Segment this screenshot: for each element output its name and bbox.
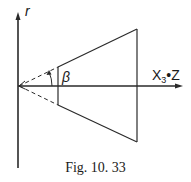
figure-caption: Fig. 10. 33 <box>0 160 191 176</box>
r-axis-arrow-icon <box>16 12 21 20</box>
r-axis-label: r <box>25 4 30 18</box>
cone-figure: r β X3•Z Fig. 10. 33 <box>0 0 191 182</box>
x3-axis-label-suffix: •Z <box>166 67 179 83</box>
beta-angle-label: β <box>62 70 70 84</box>
x3-axis-label: X3•Z <box>152 68 180 85</box>
cone-diagram-svg <box>0 0 191 182</box>
x3-axis-label-main: X <box>152 67 161 83</box>
lower-generator <box>58 105 137 142</box>
upper-generator <box>58 29 137 67</box>
